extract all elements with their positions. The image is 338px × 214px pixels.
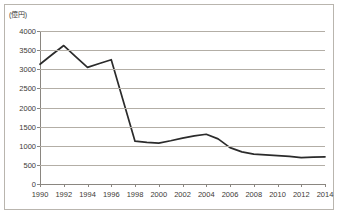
gridline-y-3000	[40, 69, 325, 70]
x-tick-label: 1994	[79, 190, 96, 199]
gridline-y-500	[40, 165, 325, 166]
x-tick-mark	[230, 184, 231, 187]
y-tick-label: 3000	[19, 65, 36, 74]
x-tick-label: 1998	[127, 190, 144, 199]
x-tick-mark	[183, 184, 184, 187]
x-tick-label: 2010	[269, 190, 286, 199]
y-tick-mark	[37, 50, 40, 51]
y-tick-mark	[37, 88, 40, 89]
x-tick-label: 1992	[55, 190, 72, 199]
y-axis-tick-labels: 05001000150020002500300035004000	[0, 0, 36, 214]
x-tick-label: 1996	[103, 190, 120, 199]
y-tick-mark	[37, 165, 40, 166]
x-tick-label: 2000	[150, 190, 167, 199]
y-tick-label: 3500	[19, 46, 36, 55]
y-tick-label: 2000	[19, 103, 36, 112]
chart-figure: (億円) 05001000150020002500300035004000 19…	[0, 0, 338, 214]
x-tick-mark	[325, 184, 326, 187]
x-tick-mark	[254, 184, 255, 187]
x-tick-mark	[88, 184, 89, 187]
x-tick-label: 2012	[293, 190, 310, 199]
x-tick-mark	[206, 184, 207, 187]
x-tick-label: 1990	[32, 190, 49, 199]
x-tick-label: 2014	[317, 190, 334, 199]
x-tick-mark	[64, 184, 65, 187]
x-tick-mark	[278, 184, 279, 187]
y-tick-label: 1000	[19, 141, 36, 150]
y-tick-mark	[37, 108, 40, 109]
gridline-y-1500	[40, 127, 325, 128]
y-tick-label: 2500	[19, 84, 36, 93]
x-tick-mark	[40, 184, 41, 187]
gridline-y-4000	[40, 31, 325, 32]
y-tick-label: 0	[32, 180, 36, 189]
gridline-y-1000	[40, 146, 325, 147]
x-tick-mark	[159, 184, 160, 187]
x-tick-mark	[301, 184, 302, 187]
x-tick-mark	[111, 184, 112, 187]
x-tick-mark	[135, 184, 136, 187]
y-tick-mark	[37, 127, 40, 128]
y-tick-mark	[37, 146, 40, 147]
plot-area	[40, 31, 325, 184]
y-tick-mark	[37, 31, 40, 32]
y-tick-label: 1500	[19, 122, 36, 131]
y-tick-label: 500	[23, 160, 36, 169]
x-tick-label: 2008	[245, 190, 262, 199]
y-tick-label: 4000	[19, 27, 36, 36]
x-tick-label: 2002	[174, 190, 191, 199]
gridline-y-2500	[40, 88, 325, 89]
x-tick-label: 2004	[198, 190, 215, 199]
x-tick-label: 2006	[222, 190, 239, 199]
gridline-y-2000	[40, 108, 325, 109]
y-tick-mark	[37, 69, 40, 70]
gridline-y-3500	[40, 50, 325, 51]
